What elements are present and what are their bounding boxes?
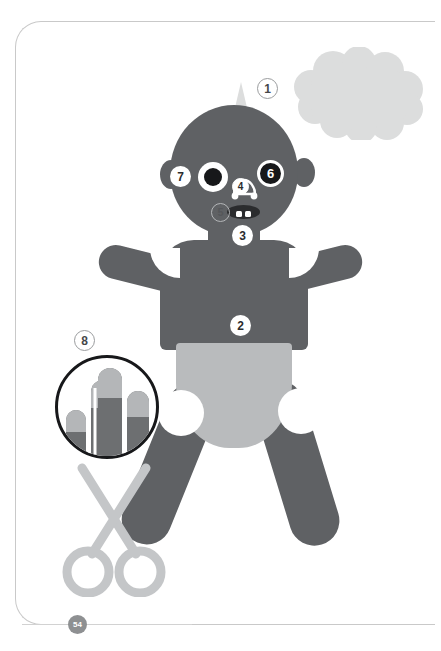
fingernail-inset-graphic bbox=[58, 358, 156, 456]
finger-group bbox=[66, 368, 149, 456]
callout-marker-6[interactable]: 6 bbox=[257, 160, 284, 187]
callout-label-8: 8 bbox=[81, 335, 88, 347]
fingernail-inset bbox=[55, 355, 159, 459]
callout-marker-3[interactable]: 3 bbox=[232, 225, 253, 246]
page-number-badge: 54 bbox=[68, 615, 87, 634]
page-number-rule bbox=[22, 624, 192, 625]
callout-label-1: 1 bbox=[264, 83, 271, 95]
hip-notch-left bbox=[158, 390, 204, 436]
callout-marker-8[interactable]: 8 bbox=[74, 330, 95, 351]
callout-marker-7[interactable]: 7 bbox=[170, 166, 191, 187]
hip-notch-right bbox=[278, 388, 324, 434]
tooth-right bbox=[245, 211, 251, 217]
eye-left-pupil bbox=[204, 168, 222, 186]
callout-marker-5[interactable]: 5 bbox=[211, 203, 230, 222]
callout-label-5: 5 bbox=[217, 207, 223, 218]
callout-label-3: 3 bbox=[239, 230, 246, 242]
callout-marker-2[interactable]: 2 bbox=[230, 315, 251, 336]
tooth-left bbox=[236, 211, 242, 217]
thought-bubble bbox=[291, 47, 425, 140]
mouth bbox=[227, 205, 260, 219]
worksheet-page: 1 2 3 4 5 6 7 8 bbox=[0, 0, 441, 651]
scissors-icon bbox=[58, 462, 170, 597]
callout-label-4: 4 bbox=[238, 182, 244, 192]
callout-label-2: 2 bbox=[237, 320, 244, 332]
callout-label-7: 7 bbox=[177, 171, 184, 183]
callout-label-6: 6 bbox=[267, 167, 274, 180]
callout-marker-4[interactable]: 4 bbox=[232, 178, 249, 195]
callout-marker-1[interactable]: 1 bbox=[257, 78, 278, 99]
